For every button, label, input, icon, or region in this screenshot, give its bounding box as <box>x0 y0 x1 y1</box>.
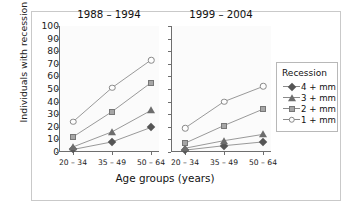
legend-title: Recession <box>282 68 333 78</box>
legend-item[interactable]: 1 + mm <box>282 114 333 125</box>
data-point-filled-square <box>148 80 154 86</box>
legend-label: 3 + mm <box>301 93 336 103</box>
panel-title: 1999 – 2004 <box>171 9 271 20</box>
chart-figure: Individuals with recession (%) 010203040… <box>0 0 352 212</box>
x-tick-mark <box>224 152 225 155</box>
legend-item[interactable]: 3 + mm <box>282 92 333 103</box>
legend-label: 4 + mm <box>301 82 336 92</box>
x-tick-mark <box>112 152 113 155</box>
y-axis-title: Individuals with recession (%) <box>18 0 29 123</box>
legend-item[interactable]: 2 + mm <box>282 103 333 114</box>
x-axis-tick-label: 20 – 34 <box>171 158 199 167</box>
data-point-filled-square <box>182 140 188 146</box>
data-point-filled-diamond <box>287 82 295 90</box>
x-tick-mark <box>151 152 152 155</box>
panel-title: 1988 – 1994 <box>59 9 159 20</box>
data-point-filled-triangle <box>288 94 296 101</box>
data-point-filled-square <box>289 106 295 112</box>
legend-symbol <box>282 92 301 103</box>
legend-symbol <box>282 114 301 125</box>
y-axis-tick-labels: 0102030405060708090100 <box>37 0 59 212</box>
plot-area: 20 – 3435 – 4950 – 64 <box>171 26 271 152</box>
data-point-filled-triangle <box>259 131 267 138</box>
legend-label: 2 + mm <box>301 104 336 114</box>
x-axis-tick-label: 50 – 64 <box>249 158 277 167</box>
legend-item[interactable]: 4 + mm <box>282 81 333 92</box>
x-tick-mark <box>263 152 264 155</box>
legend-entries: 4 + mm3 + mm2 + mm1 + mm <box>282 81 333 125</box>
series-lines <box>171 26 271 152</box>
data-point-open-circle <box>182 125 189 132</box>
data-point-filled-square <box>221 123 227 129</box>
x-axis-tick-label: 50 – 64 <box>137 158 165 167</box>
legend-symbol <box>282 103 301 114</box>
data-point-open-circle <box>109 84 116 91</box>
data-point-open-circle <box>288 116 295 123</box>
panel-1988-1994: 1988 – 1994 20 – 3435 – 4950 – 64 <box>59 26 159 152</box>
y-tick-mark <box>168 152 171 153</box>
plot-area: 20 – 3435 – 4950 – 64 <box>59 26 159 152</box>
data-point-filled-triangle <box>147 107 155 114</box>
data-point-open-circle <box>221 98 228 105</box>
x-axis-tick-label: 20 – 34 <box>59 158 87 167</box>
data-point-filled-square <box>260 106 266 112</box>
x-axis-title: Age groups (years) <box>59 172 271 184</box>
x-axis-tick-label: 35 – 49 <box>210 158 238 167</box>
data-point-filled-triangle <box>108 128 116 135</box>
data-point-filled-square <box>70 134 76 140</box>
data-point-open-circle <box>70 119 77 126</box>
data-point-open-circle <box>260 83 267 90</box>
data-point-filled-triangle <box>69 143 77 150</box>
data-point-filled-triangle <box>220 137 228 144</box>
legend: Recession 4 + mm3 + mm2 + mm1 + mm <box>276 62 338 132</box>
x-axis-tick-label: 35 – 49 <box>98 158 126 167</box>
legend-label: 1 + mm <box>301 115 336 125</box>
panel-1999-2004: 1999 – 2004 20 – 3435 – 4950 – 64 <box>171 26 271 152</box>
legend-symbol <box>282 81 301 92</box>
data-point-filled-square <box>109 109 115 115</box>
y-tick-mark <box>56 152 59 153</box>
data-point-open-circle <box>148 57 155 64</box>
